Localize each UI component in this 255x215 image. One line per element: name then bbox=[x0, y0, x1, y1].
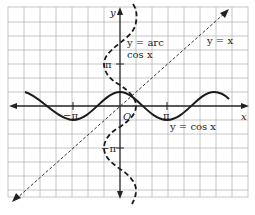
x-tick-pi: π bbox=[163, 110, 170, 121]
label-arccos-line2: cos x bbox=[127, 49, 153, 60]
y-axis-up-arrow-icon bbox=[117, 7, 123, 15]
y-tick-pi: π bbox=[105, 59, 112, 70]
y-axis-label: y bbox=[109, 7, 116, 18]
origin-label: O bbox=[123, 111, 131, 122]
label-y-equals-x: y = x bbox=[206, 35, 233, 46]
x-tick-neg-pi: −π bbox=[63, 110, 78, 121]
y-equals-x-arrow-up-icon bbox=[220, 9, 229, 18]
x-axis-left-arrow-icon bbox=[9, 103, 17, 109]
y-equals-x-arrow-down-icon bbox=[12, 193, 21, 202]
y-tick-neg-pi: −π bbox=[101, 143, 116, 154]
label-arccos-line1: y = arc bbox=[126, 37, 164, 48]
x-axis-label: x bbox=[241, 111, 247, 122]
label-cos: y = cos x bbox=[169, 121, 216, 132]
y-axis-down-arrow-icon bbox=[117, 191, 123, 199]
chart: y x O −π π π −π y = arc cos x y = x y = … bbox=[0, 0, 255, 215]
